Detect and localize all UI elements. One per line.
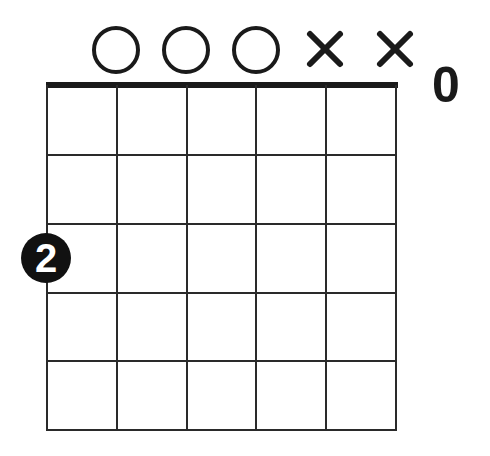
finger-number: 2 [35, 236, 57, 280]
finger-dot: 2 [21, 233, 71, 283]
start-fret-label: 0 [432, 57, 460, 113]
chord-diagram: 0 2 [0, 0, 490, 456]
nut [46, 82, 398, 88]
